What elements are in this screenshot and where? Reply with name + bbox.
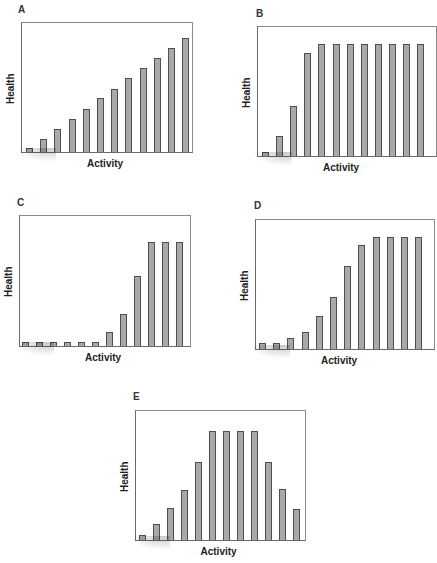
bar <box>302 332 309 349</box>
bar <box>401 237 408 349</box>
bar <box>223 431 230 540</box>
bar <box>139 535 146 540</box>
bar <box>83 109 90 152</box>
bar-series <box>258 27 436 156</box>
panel-label: C <box>17 197 24 208</box>
bar <box>387 237 394 349</box>
bar <box>120 314 127 346</box>
bar <box>265 462 272 540</box>
bar <box>92 342 99 346</box>
y-axis-label: Health <box>239 270 250 301</box>
x-axis-label: Activity <box>321 355 357 366</box>
bar-series <box>20 216 190 346</box>
plot-area <box>135 410 306 541</box>
bar <box>176 242 183 346</box>
bar <box>251 431 258 540</box>
bar <box>162 242 169 346</box>
bar <box>287 338 294 349</box>
bar <box>279 489 286 540</box>
bar <box>69 119 76 152</box>
panel-label: A <box>18 4 25 15</box>
bar <box>167 508 174 540</box>
bar <box>358 245 365 349</box>
y-axis-label: Health <box>241 77 252 108</box>
bar <box>389 44 396 156</box>
bar <box>140 68 147 152</box>
bar <box>125 78 132 152</box>
bar <box>154 58 161 152</box>
bar <box>26 148 33 152</box>
bar-series <box>136 411 305 540</box>
bar <box>415 237 422 349</box>
panel-label: E <box>133 391 140 402</box>
panel-label: D <box>254 200 261 211</box>
y-axis-label: Health <box>119 461 130 492</box>
bar <box>347 44 354 156</box>
bar <box>78 342 85 346</box>
bar <box>148 242 155 346</box>
x-axis-label: Activity <box>201 546 237 557</box>
bar <box>195 462 202 540</box>
bar <box>304 53 311 156</box>
bar <box>111 89 118 152</box>
y-axis-label: Health <box>5 73 16 104</box>
bar <box>50 342 57 346</box>
bar <box>237 431 244 540</box>
bar-series <box>22 23 192 152</box>
bar <box>262 152 269 156</box>
bar <box>330 297 337 349</box>
bar <box>209 431 216 540</box>
bar <box>64 342 71 346</box>
bar <box>181 490 188 540</box>
bar <box>168 48 175 152</box>
bar <box>316 316 323 349</box>
plot-area <box>21 22 193 153</box>
bar <box>318 44 325 156</box>
plot-area <box>19 215 191 347</box>
bar <box>333 44 340 156</box>
bar <box>403 44 410 156</box>
plot-area <box>255 219 435 350</box>
bar <box>273 343 280 349</box>
bar <box>259 343 266 349</box>
bar <box>373 237 380 349</box>
bar <box>54 129 61 152</box>
bar <box>417 44 424 156</box>
x-axis-label: Activity <box>323 162 359 173</box>
x-axis-label: Activity <box>85 352 121 363</box>
bar <box>375 44 382 156</box>
bar <box>276 136 283 156</box>
bar <box>182 38 189 152</box>
bar <box>36 342 43 346</box>
x-axis-label: Activity <box>87 158 123 169</box>
bar <box>290 106 297 156</box>
bar <box>344 266 351 349</box>
plot-area <box>257 26 437 157</box>
panel-label: B <box>256 8 263 19</box>
y-axis-label: Health <box>3 266 14 297</box>
bar <box>40 139 47 152</box>
bar <box>106 332 113 346</box>
bar <box>361 44 368 156</box>
bar <box>134 276 141 346</box>
bar <box>293 509 300 540</box>
bar <box>22 342 29 346</box>
bar <box>97 98 104 152</box>
bar <box>153 524 160 540</box>
bar-series <box>256 220 434 349</box>
